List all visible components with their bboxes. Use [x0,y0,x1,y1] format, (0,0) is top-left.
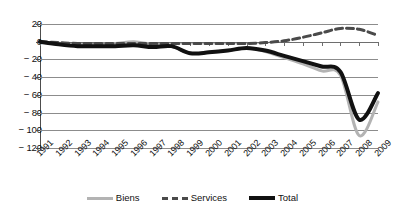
legend-label-total: Total [278,193,298,203]
plot-area [40,24,378,148]
x-axis-labels: 1991199219931994199519961997199819992000… [40,150,378,190]
series-lines [40,24,378,148]
legend-item-total: Total [249,193,298,203]
series-line-biens [40,42,378,136]
legend-label-biens: Biens [116,193,140,203]
chart-legend: Biens Services Total [0,193,385,203]
legend-swatch-biens [87,197,113,200]
x-tick-2009 [378,42,379,46]
series-line-total [40,42,378,120]
legend-item-services: Services [162,193,227,203]
series-line-services [40,28,378,43]
legend-item-biens: Biens [87,193,140,203]
legend-swatch-total [249,196,275,200]
legend-swatch-services [162,197,188,200]
legend-label-services: Services [191,193,227,203]
